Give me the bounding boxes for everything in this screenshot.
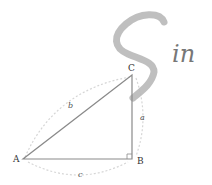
diagram-svg: in A B C a b c — [0, 0, 212, 185]
sine-diagram: in A B C a b c — [0, 0, 212, 185]
right-triangle — [23, 75, 132, 159]
vertex-label-a: A — [12, 154, 20, 164]
s-brush-glyph — [116, 15, 164, 98]
side-label-a: a — [140, 113, 145, 122]
right-angle-marker — [127, 154, 132, 159]
sin-suffix-text: in — [172, 40, 195, 68]
side-label-b: b — [68, 101, 73, 110]
vertex-label-c: C — [128, 63, 135, 73]
side-label-c: c — [78, 170, 83, 179]
vertex-label-b: B — [137, 156, 144, 166]
